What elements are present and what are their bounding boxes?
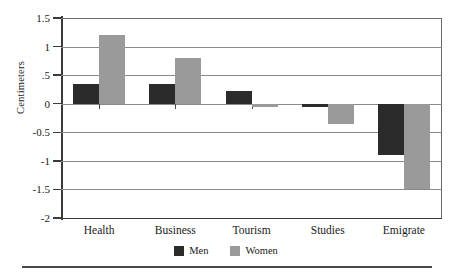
- gridline-neg1: [61, 161, 442, 162]
- y-tick-label: -2: [41, 212, 50, 224]
- y-tick-label: 0: [45, 98, 51, 110]
- x-axis-label-emigrate: Emigrate: [383, 224, 425, 236]
- x-axis-label-studies: Studies: [311, 224, 345, 236]
- plot-area: 1.51.50-0.5-1-1.5-2: [61, 18, 442, 218]
- y-tick-mark: [53, 132, 61, 133]
- x-axis-label-health: Health: [84, 224, 115, 236]
- gridline-neg1p5: [61, 189, 442, 190]
- y-axis-title: Centimeters: [15, 33, 26, 143]
- legend-label: Men: [189, 245, 208, 256]
- legend-swatch-women-icon: [230, 246, 240, 256]
- x-tick-health: [99, 104, 100, 109]
- y-tick-mark: [53, 160, 61, 161]
- bar-health-women: [99, 35, 125, 104]
- legend-label: Women: [245, 245, 277, 256]
- y-tick-label: 1.5: [36, 12, 50, 24]
- bar-health-men: [73, 84, 99, 104]
- bar-emigrate-men: [378, 104, 404, 155]
- bar-emigrate-women: [404, 104, 430, 190]
- bar-tourism-men: [226, 91, 252, 104]
- x-tick-business: [175, 104, 176, 109]
- y-tick-label: -0.5: [33, 126, 50, 138]
- y-tick-mark: [53, 217, 61, 218]
- y-tick-mark: [53, 17, 61, 18]
- bar-tourism-women: [252, 104, 278, 107]
- x-axis-label-business: Business: [155, 224, 196, 236]
- bar-studies-men: [302, 104, 328, 107]
- bar-studies-women: [328, 104, 354, 124]
- y-tick-label: 1: [45, 41, 51, 53]
- chart-legend: MenWomen: [0, 245, 452, 256]
- y-tick-label: -1.5: [33, 183, 50, 195]
- bottom-divider-rule: [22, 266, 432, 268]
- bar-business-men: [149, 84, 175, 104]
- legend-swatch-men-icon: [174, 246, 184, 256]
- gridline-1p5: [61, 18, 442, 19]
- y-tick-label: .5: [42, 69, 50, 81]
- x-axis-label-tourism: Tourism: [232, 224, 270, 236]
- legend-item-women: Women: [230, 245, 277, 256]
- y-tick-mark: [53, 74, 61, 75]
- plot-right-border: [441, 18, 442, 218]
- legend-item-men: Men: [174, 245, 208, 256]
- bar-business-women: [175, 58, 201, 104]
- y-tick-label: -1: [41, 155, 50, 167]
- y-tick-mark: [53, 189, 61, 190]
- bar-chart-figure: Centimeters 1.51.50-0.5-1-1.5-2 HealthBu…: [0, 0, 452, 278]
- gridline-neg2: [61, 218, 442, 219]
- y-tick-mark: [53, 46, 61, 47]
- y-tick-mark: [53, 103, 61, 104]
